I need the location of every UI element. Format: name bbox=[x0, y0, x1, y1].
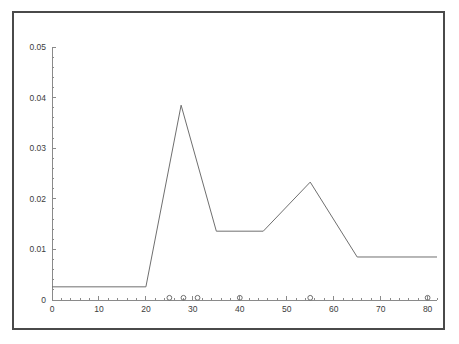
y-axis-tick-label: 0.05 bbox=[29, 42, 46, 52]
tick-marks-group bbox=[52, 47, 437, 300]
y-axis-tick-label: 0.01 bbox=[29, 244, 46, 254]
x-axis-tick-label: 60 bbox=[329, 304, 339, 314]
x-axis-tick-labels: 01020304050607080 bbox=[50, 304, 433, 314]
x-axis-tick-label: 0 bbox=[50, 304, 55, 314]
x-axis-tick-label: 70 bbox=[376, 304, 386, 314]
data-series-group bbox=[52, 105, 437, 287]
x-axis-tick-label: 50 bbox=[282, 304, 292, 314]
x-axis-tick-label: 40 bbox=[235, 304, 245, 314]
x-axis-tick-label: 80 bbox=[423, 304, 433, 314]
y-axis-tick-labels: 00.010.020.030.040.05 bbox=[29, 42, 46, 305]
data-series-line bbox=[52, 105, 437, 287]
y-axis-tick-label: 0 bbox=[41, 295, 46, 305]
y-axis-tick-label: 0.04 bbox=[29, 93, 46, 103]
y-axis-tick-label: 0.02 bbox=[29, 194, 46, 204]
baseline-circle-marker bbox=[308, 295, 313, 300]
axes-group bbox=[52, 47, 437, 300]
figure-root: 00.010.020.030.040.05 01020304050607080 bbox=[0, 0, 459, 344]
x-axis-tick-label: 10 bbox=[94, 304, 104, 314]
baseline-circle-marker bbox=[195, 295, 200, 300]
baseline-circle-marker bbox=[167, 295, 172, 300]
x-axis-tick-label: 20 bbox=[141, 304, 151, 314]
baseline-markers-group bbox=[167, 295, 430, 300]
x-axis-tick-label: 30 bbox=[188, 304, 198, 314]
line-chart-plot: 00.010.020.030.040.05 01020304050607080 bbox=[0, 0, 459, 344]
y-axis-tick-label: 0.03 bbox=[29, 143, 46, 153]
